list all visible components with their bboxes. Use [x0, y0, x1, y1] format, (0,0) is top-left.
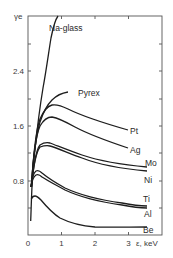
secondary-electron-yield-chart: 2.4 1.6 0.8 γe 0 1 2 3 ε, keV Na-glass P…: [0, 0, 173, 258]
x-tick-label-3: 3: [126, 239, 131, 248]
label-mo: Mo: [145, 158, 157, 168]
y-axis-ticks: [28, 16, 162, 235]
label-ti: Ti: [143, 194, 150, 204]
curve-al: [31, 175, 147, 208]
label-ni: Ni: [144, 175, 152, 185]
y-axis-label: γe: [14, 12, 23, 21]
x-axis-label: ε, keV: [136, 239, 158, 248]
x-tick-label-1: 1: [59, 239, 64, 248]
x-tick-label-2: 2: [93, 239, 98, 248]
label-pt: Pt: [130, 126, 139, 136]
x-tick-label-0: 0: [26, 239, 31, 248]
label-pyrex: Pyrex: [78, 88, 100, 98]
curve-ti: [31, 171, 147, 206]
label-be: Be: [143, 225, 154, 235]
curve-be: [31, 196, 147, 227]
y-tick-label-2.4: 2.4: [13, 67, 25, 76]
label-na-glass: Na-glass: [49, 23, 83, 33]
label-al: Al: [144, 209, 152, 219]
label-ag: Ag: [130, 145, 141, 155]
plot-frame: [28, 16, 162, 235]
curve-na-glass: [31, 16, 58, 221]
y-tick-label-0.8: 0.8: [13, 177, 25, 186]
y-tick-label-1.6: 1.6: [13, 122, 25, 131]
